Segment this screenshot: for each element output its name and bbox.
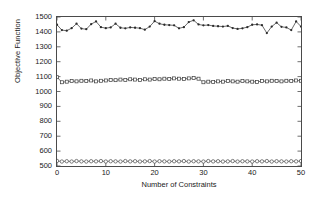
data-point xyxy=(183,26,185,28)
data-point xyxy=(285,160,288,163)
data-point xyxy=(221,80,224,83)
data-point xyxy=(188,21,190,23)
data-point xyxy=(173,77,176,80)
data-point xyxy=(104,160,107,163)
data-point xyxy=(119,160,122,163)
data-point xyxy=(105,27,107,29)
data-point xyxy=(231,80,234,83)
data-point xyxy=(236,28,238,30)
y-tick-1500: 1500 xyxy=(12,13,52,21)
data-point xyxy=(251,24,253,26)
data-point xyxy=(57,76,59,79)
data-point xyxy=(66,30,68,32)
data-point xyxy=(270,160,273,163)
data-point xyxy=(178,27,180,29)
data-point xyxy=(134,78,137,81)
data-point xyxy=(260,80,263,83)
data-point xyxy=(285,26,287,28)
x-tick-50: 50 xyxy=(286,169,316,177)
data-point xyxy=(94,160,97,163)
y-tick-1300: 1300 xyxy=(12,43,52,51)
data-point xyxy=(251,160,254,163)
plot-area xyxy=(56,16,302,167)
data-point xyxy=(177,160,180,163)
data-point xyxy=(197,23,199,25)
data-point xyxy=(255,160,258,163)
x-tick-30: 30 xyxy=(188,169,218,177)
data-point xyxy=(187,77,190,80)
data-point xyxy=(226,160,229,163)
data-point xyxy=(236,160,239,163)
data-point xyxy=(70,160,73,163)
data-point xyxy=(275,160,278,163)
data-point xyxy=(226,80,229,83)
data-point xyxy=(207,24,209,26)
data-point xyxy=(143,78,146,81)
data-point xyxy=(211,160,214,163)
data-point xyxy=(138,78,141,81)
data-series-group xyxy=(57,19,301,163)
series-middle xyxy=(57,76,301,84)
data-point xyxy=(158,160,161,163)
axis-ticks xyxy=(57,17,301,166)
data-point xyxy=(300,79,302,82)
data-point xyxy=(192,77,195,80)
data-point xyxy=(75,23,77,25)
data-point xyxy=(290,160,293,163)
data-point xyxy=(202,24,204,26)
data-point xyxy=(222,25,224,27)
data-point xyxy=(241,27,243,29)
data-point xyxy=(168,160,171,163)
data-point xyxy=(60,160,63,163)
data-point xyxy=(280,80,283,83)
data-point xyxy=(114,23,116,25)
data-point xyxy=(178,77,181,80)
data-point xyxy=(202,81,205,84)
series-upper xyxy=(57,19,301,34)
x-tick-0: 0 xyxy=(42,169,72,177)
data-point xyxy=(295,20,297,22)
data-point xyxy=(290,29,292,31)
data-point xyxy=(109,78,112,81)
data-point xyxy=(90,79,93,82)
series-line-upper xyxy=(57,20,301,33)
data-point xyxy=(197,160,200,163)
data-point xyxy=(197,77,200,80)
y-tick-700: 700 xyxy=(12,132,52,140)
data-point xyxy=(217,25,219,27)
y-tick-1400: 1400 xyxy=(12,28,52,36)
data-point xyxy=(148,159,151,162)
data-point xyxy=(57,159,59,162)
data-point xyxy=(60,81,63,84)
plot-canvas xyxy=(57,17,301,166)
data-point xyxy=(129,160,132,163)
data-point xyxy=(129,26,131,28)
series-lower xyxy=(57,159,301,163)
data-point xyxy=(85,80,88,83)
data-point xyxy=(280,26,282,28)
data-point xyxy=(232,27,234,29)
data-point xyxy=(158,23,160,25)
data-point xyxy=(265,159,268,162)
data-point xyxy=(172,160,175,163)
data-point xyxy=(265,80,268,83)
data-point xyxy=(212,80,215,83)
figure: Objective Function 500600700800900100011… xyxy=(0,0,322,198)
y-tick-1200: 1200 xyxy=(12,58,52,66)
x-tick-20: 20 xyxy=(140,169,170,177)
data-point xyxy=(119,27,121,29)
data-point xyxy=(75,80,78,83)
data-point xyxy=(110,26,112,28)
data-point xyxy=(149,25,151,27)
data-point xyxy=(89,160,92,163)
data-point xyxy=(271,25,273,27)
data-point xyxy=(231,159,234,162)
data-point xyxy=(261,24,263,26)
data-point xyxy=(80,160,83,163)
data-point xyxy=(295,79,298,82)
data-point xyxy=(158,78,161,81)
data-point xyxy=(182,159,185,162)
data-point xyxy=(134,27,136,29)
data-point xyxy=(119,78,122,81)
data-point xyxy=(207,80,210,83)
